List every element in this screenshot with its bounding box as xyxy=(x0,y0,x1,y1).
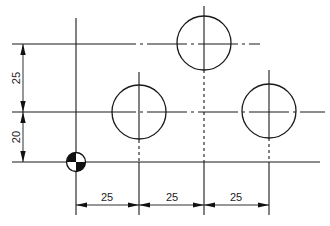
technical-drawing: 25 20 25 25 25 xyxy=(0,0,330,226)
arrow-left-icon xyxy=(139,202,150,207)
dimension-label-hole-3: 25 xyxy=(230,191,242,203)
arrow-right-icon xyxy=(193,202,204,207)
arrow-down-icon xyxy=(20,151,25,162)
arrow-left-icon xyxy=(204,202,215,207)
arrow-left-icon xyxy=(76,202,87,207)
dimension-label-row-1: 20 xyxy=(10,131,22,143)
origin-symbol-icon xyxy=(67,153,86,172)
arrow-down-icon xyxy=(20,101,25,112)
dimension-label-hole-1: 25 xyxy=(101,191,113,203)
dimension-label-hole-2: 25 xyxy=(166,191,178,203)
arrow-up-icon xyxy=(20,44,25,55)
arrow-right-icon xyxy=(258,202,269,207)
arrow-right-icon xyxy=(128,202,139,207)
dimension-label-row-2: 25 xyxy=(10,72,22,84)
arrow-up-icon xyxy=(20,112,25,123)
